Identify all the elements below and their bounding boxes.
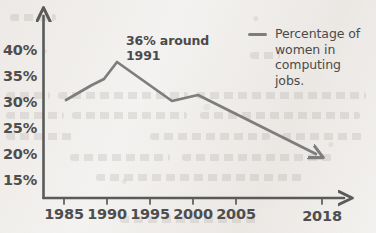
legend-line-marker-icon	[248, 33, 267, 36]
y-axis-label-35: 35%	[0, 68, 37, 84]
y-axis-label-30: 30%	[0, 94, 37, 110]
y-axis-label-25: 25%	[0, 120, 37, 136]
x-axis-label-2005: 2005	[202, 206, 270, 222]
peak-annotation: 36% around 1991	[126, 34, 236, 63]
x-axis-label-2018: 2018	[288, 208, 356, 224]
peak-annotation-line2: 1991	[126, 49, 236, 64]
y-axis-label-15: 15%	[0, 172, 37, 188]
legend-label: Percentage of women in computing jobs.	[275, 26, 372, 88]
chart-legend: Percentage of women in computing jobs.	[248, 26, 372, 88]
chart-page: 40% 35% 30% 25% 20% 15% 1985 1990 1995 2…	[0, 0, 376, 233]
peak-annotation-line1: 36% around	[126, 34, 236, 49]
y-axis-label-20: 20%	[0, 146, 37, 162]
y-axis-label-40: 40%	[0, 42, 37, 58]
